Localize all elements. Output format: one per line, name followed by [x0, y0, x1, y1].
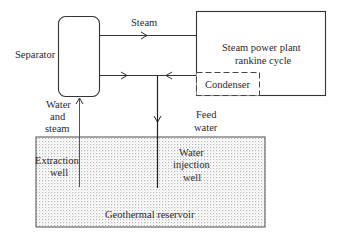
- separator-label: Separator: [15, 49, 55, 61]
- extraction-well-label-line1: Extraction: [35, 155, 79, 167]
- steam-label: Steam: [131, 17, 157, 29]
- power-plant-label-line1: Steam power plant: [222, 42, 301, 54]
- feed-water-label-line1: Feed: [196, 109, 216, 121]
- condenser-label: Condenser: [205, 79, 250, 91]
- water-and-steam-label-line3: steam: [45, 123, 70, 135]
- injection-well-label-line1: Water: [179, 147, 204, 159]
- injection-well-label-line2: injection: [173, 159, 210, 171]
- reservoir-label: Geothermal reservoir: [105, 209, 195, 221]
- power-plant-label-line2: rankine cycle: [235, 55, 291, 67]
- injection-well-label-line3: well: [183, 172, 201, 184]
- feed-water-label-line2: water: [194, 122, 217, 134]
- extraction-well-label-line2: well: [50, 167, 68, 179]
- water-and-steam-label-line2: and: [50, 111, 65, 123]
- separator-vessel: [59, 17, 100, 97]
- water-and-steam-label-line1: Water: [46, 99, 71, 111]
